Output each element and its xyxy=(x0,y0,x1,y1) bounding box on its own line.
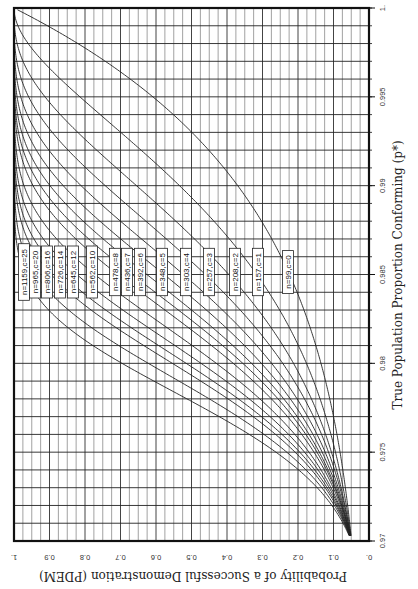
series-label: n=562,c=10 xyxy=(87,246,98,298)
x-tick-label: 1. xyxy=(378,5,387,11)
series-label: n=208,c=2 xyxy=(230,248,241,295)
oc-curve-chart: 0.970.9750.980.9850.990.9951.0.0.10.20.3… xyxy=(0,0,418,589)
x-tick-label: 0.99 xyxy=(378,178,387,193)
svg-text:n=392,c=6: n=392,c=6 xyxy=(136,253,145,291)
series-label: n=257,c=3 xyxy=(204,248,215,295)
svg-text:n=1159,c=25: n=1159,c=25 xyxy=(20,248,29,295)
series-label: n=478,c=8 xyxy=(110,248,121,295)
y-tick-label: 0.5 xyxy=(186,553,196,562)
y-tick-label: 0.4 xyxy=(222,553,232,562)
svg-text:n=303,c=4: n=303,c=4 xyxy=(182,253,191,291)
svg-text:n=478,c=8: n=478,c=8 xyxy=(111,253,120,291)
series-label: n=392,c=6 xyxy=(135,248,146,295)
svg-text:n=348,c=5: n=348,c=5 xyxy=(158,253,167,291)
y-tick-label: 0.6 xyxy=(151,553,161,562)
series-label: n=726,c=14 xyxy=(55,246,66,298)
x-tick-label: 0.985 xyxy=(378,265,387,284)
svg-text:n=806,c=16: n=806,c=16 xyxy=(43,250,52,293)
x-tick-label: 0.98 xyxy=(378,356,387,371)
y-tick-label: 0.8 xyxy=(80,553,90,562)
svg-text:n=562,c=10: n=562,c=10 xyxy=(88,250,97,293)
series-label: n=303,c=4 xyxy=(181,248,192,295)
y-tick-label: 0.3 xyxy=(257,553,267,562)
svg-text:n=208,c=2: n=208,c=2 xyxy=(231,253,240,291)
series-label: n=157,c=1 xyxy=(253,248,264,295)
x-tick-label: 0.97 xyxy=(378,534,387,549)
svg-text:n=645,c=12: n=645,c=12 xyxy=(69,250,78,293)
x-tick-label: 0.995 xyxy=(378,87,387,106)
svg-text:n=99,c=0: n=99,c=0 xyxy=(284,255,293,289)
series-label: n=1159,c=25 xyxy=(19,244,30,301)
svg-text:n=436,c=7: n=436,c=7 xyxy=(123,253,132,291)
svg-text:n=965,c=20: n=965,c=20 xyxy=(31,250,40,293)
y-tick-label: 1. xyxy=(11,553,17,562)
svg-text:n=257,c=3: n=257,c=3 xyxy=(205,253,214,291)
y-tick-label: 0.7 xyxy=(115,553,125,562)
y-tick-label: 0. xyxy=(366,553,372,562)
y-axis-title: Probability of a Successful Demonstratio… xyxy=(39,569,347,583)
x-tick-label: 0.975 xyxy=(378,443,387,462)
svg-text:n=726,c=14: n=726,c=14 xyxy=(56,250,65,293)
y-tick-label: 0.1 xyxy=(328,553,338,562)
x-axis-title: True Population Proportion Conforming (p… xyxy=(391,140,405,409)
series-label: n=645,c=12 xyxy=(68,246,79,298)
series-label: n=99,c=0 xyxy=(283,251,294,294)
series-label: n=965,c=20 xyxy=(30,246,41,298)
series-label: n=348,c=5 xyxy=(157,248,168,295)
svg-text:n=157,c=1: n=157,c=1 xyxy=(254,253,263,291)
series-label: n=806,c=16 xyxy=(42,246,53,298)
y-tick-label: 0.9 xyxy=(44,553,54,562)
y-tick-label: 0.2 xyxy=(293,553,303,562)
series-label: n=436,c=7 xyxy=(122,248,133,295)
